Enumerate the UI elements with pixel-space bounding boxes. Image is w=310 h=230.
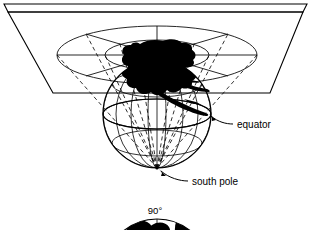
- equator-label: equator: [237, 119, 272, 130]
- polar-land-center: [150, 223, 171, 230]
- polar-map-landmass: [126, 219, 196, 230]
- south-pole-arrowhead: [159, 169, 166, 176]
- plane-thickness-band: [4, 4, 307, 12]
- polar-map-inset: [104, 219, 210, 230]
- south-pole-point: [155, 166, 158, 169]
- stereographic-projection-figure: equator south pole 90°: [0, 0, 310, 230]
- ninety-degree-label: 90°: [148, 205, 163, 216]
- south-pole-label: south pole: [192, 176, 239, 187]
- polar-land-right: [175, 219, 197, 230]
